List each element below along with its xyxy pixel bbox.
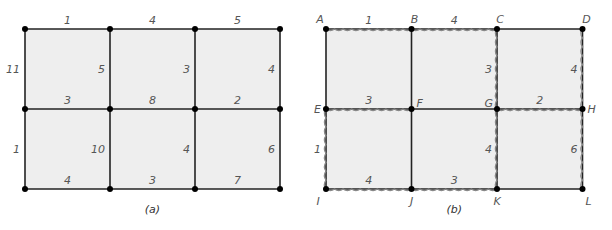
node-label-E: E: [314, 103, 321, 116]
edge-weight: 1: [13, 143, 20, 156]
edge-weight: 7: [234, 174, 241, 187]
node: [409, 106, 415, 112]
edge-weight: 6: [268, 143, 275, 156]
node: [494, 106, 500, 112]
edge-weight: 10: [91, 143, 105, 156]
node: [409, 26, 415, 32]
node: [580, 186, 586, 192]
edge-weight: 6: [571, 143, 578, 156]
node: [277, 106, 283, 112]
node: [192, 106, 198, 112]
node-label-L: L: [585, 195, 591, 208]
node: [22, 106, 28, 112]
edge-weight: 2: [536, 94, 543, 107]
node-label-K: K: [493, 195, 501, 208]
edge-weight: 2: [234, 94, 241, 107]
edge-weight: 4: [365, 174, 372, 187]
edge-weight: 4: [485, 143, 492, 156]
node: [323, 106, 329, 112]
panel-a: 1453824371153411046(a): [6, 14, 283, 216]
node-label-C: C: [496, 13, 504, 26]
grid-diagram: 1453824371153411046(a)14324334146ABCDEFG…: [0, 0, 612, 230]
edge-weight: 1: [64, 14, 71, 27]
node-label-G: G: [484, 97, 493, 110]
node: [22, 186, 28, 192]
node-label-B: B: [411, 13, 419, 26]
node: [323, 26, 329, 32]
node: [277, 26, 283, 32]
node-label-A: A: [315, 13, 324, 26]
edge-weight: 4: [451, 14, 458, 27]
edge-weight: 1: [365, 14, 372, 27]
node: [580, 26, 586, 32]
edge-weight: 4: [571, 63, 578, 76]
edge-weight: 5: [98, 63, 105, 76]
node: [580, 106, 586, 112]
edge-weight: 4: [149, 14, 156, 27]
edge-weight: 4: [268, 63, 275, 76]
node: [494, 186, 500, 192]
node-label-J: J: [408, 195, 413, 208]
node-label-H: H: [588, 103, 596, 116]
edge-weight: 3: [183, 63, 190, 76]
edge-weight: 4: [64, 174, 71, 187]
panel-caption: (b): [446, 203, 462, 216]
edge-weight: 11: [6, 63, 20, 76]
node: [22, 26, 28, 32]
node: [107, 106, 113, 112]
node: [409, 186, 415, 192]
node: [192, 186, 198, 192]
node: [494, 26, 500, 32]
node: [192, 26, 198, 32]
edge-weight: 1: [314, 143, 321, 156]
node: [107, 186, 113, 192]
node-label-D: D: [582, 13, 590, 26]
edge-weight: 5: [234, 14, 241, 27]
node-label-F: F: [417, 97, 424, 110]
panel-caption: (a): [145, 203, 160, 216]
panel-b: 14324334146ABCDEFGHIJKL(b): [314, 13, 596, 216]
edge-weight: 8: [149, 94, 156, 107]
edge-weight: 3: [365, 94, 372, 107]
edge-weight: 4: [183, 143, 190, 156]
edge-weight: 3: [485, 63, 492, 76]
edge-weight: 3: [451, 174, 458, 187]
edge-weight: 3: [149, 174, 156, 187]
node: [277, 186, 283, 192]
node-label-I: I: [316, 195, 319, 208]
edge-weight: 3: [64, 94, 71, 107]
node: [107, 26, 113, 32]
node: [323, 186, 329, 192]
